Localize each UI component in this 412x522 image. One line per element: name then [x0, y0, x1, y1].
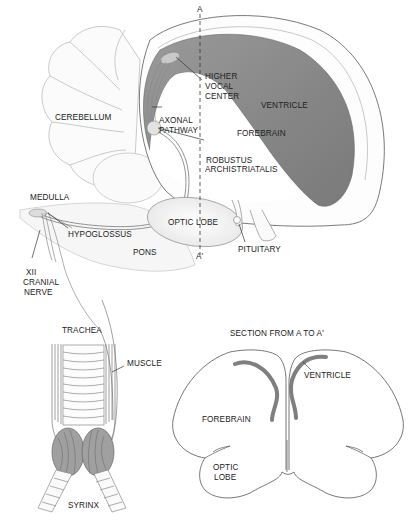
label-axonal-pathway-1: AXONAL: [159, 116, 193, 125]
section-ventricle-leader: [303, 362, 311, 370]
section-title: SECTION FROM A TO A': [230, 329, 324, 338]
label-hypoglossus: HYPOGLOSSUS: [68, 230, 132, 239]
label-pituitary: PITUITARY: [238, 245, 281, 254]
label-robustus-2: ARCHISTRIATALIS: [205, 165, 278, 174]
section-label-optic-1: OPTIC: [213, 463, 239, 472]
muscle-leader-line: [112, 366, 124, 372]
label-cranial-nerve-2: CRANIAL: [23, 278, 60, 287]
section-label-forebrain: FOREBRAIN: [202, 415, 251, 424]
label-higher-vocal-center-2: VOCAL: [205, 82, 234, 91]
trachea-rings: [63, 345, 104, 425]
cross-section-ventricle-left: [235, 362, 277, 420]
label-higher-vocal-center-1: HIGHER: [205, 72, 237, 81]
section-label-ventricle: VENTRICLE: [304, 371, 351, 380]
section-label-optic-2: LOBE: [214, 473, 237, 482]
label-optic-lobe: OPTIC LOBE: [168, 218, 219, 227]
label-ventricle: VENTRICLE: [261, 101, 308, 110]
cross-section-ventricle-right: [291, 357, 326, 418]
label-cerebellum: CEREBELLUM: [55, 113, 112, 122]
medulla-shape: [29, 209, 47, 217]
label-higher-vocal-center-3: CENTER: [205, 92, 239, 101]
brain-side-view: [20, 14, 384, 330]
label-axonal-pathway-2: PATHWAY: [159, 126, 198, 135]
label-muscle: MUSCLE: [127, 359, 162, 368]
label-syrinx: SYRINX: [68, 501, 100, 510]
diagram-canvas: A HIGHER VOCAL CENTER VENTRICLE CEREBELL…: [0, 0, 412, 522]
label-cranial-nerve-3: NERVE: [24, 288, 53, 297]
label-robustus-1: ROBUSTUS: [206, 156, 253, 165]
label-cranial-nerve-1: XII: [26, 268, 36, 277]
label-trachea: TRACHEA: [62, 326, 102, 335]
label-pons: PONS: [133, 248, 157, 257]
label-medulla: MEDULLA: [30, 193, 70, 202]
section-marker-a-prime: A': [196, 252, 204, 261]
section-marker-a: A: [197, 5, 203, 14]
syrinx-bulbs: [52, 428, 114, 476]
label-forebrain: FOREBRAIN: [237, 129, 286, 138]
